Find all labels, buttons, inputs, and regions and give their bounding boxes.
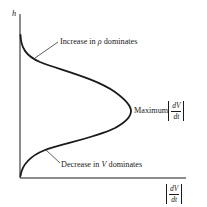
deceleration-profile-diagram: h Increase in ρ dominates Maximum dV dt …: [0, 0, 207, 207]
peak-fraction: dV dt: [169, 102, 183, 120]
x-axis-label: dV dt: [166, 184, 182, 204]
x-axis-numerator: dV: [169, 185, 179, 195]
y-axis-label: h: [12, 10, 16, 18]
x-axis-fraction: dV dt: [167, 185, 181, 203]
top-annotation-suffix: dominates: [102, 37, 138, 46]
bottom-annotation-prefix: Decrease in: [61, 160, 101, 169]
peak-annotation: Maximum dV dt: [134, 101, 184, 121]
peak-denominator: dt: [173, 112, 179, 121]
x-axis-denominator: dt: [171, 195, 177, 204]
peak-numerator: dV: [171, 102, 181, 112]
bottom-annotation-leader: [46, 150, 60, 163]
bottom-annotation-suffix: dominates: [106, 160, 142, 169]
top-annotation-prefix: Increase in: [60, 37, 98, 46]
peak-annotation-text: Maximum: [134, 107, 168, 115]
peak-abs-bars: dV dt: [168, 101, 184, 121]
bottom-annotation: Decrease in V dominates: [61, 161, 142, 169]
x-axis-abs-bars: dV dt: [166, 184, 182, 204]
top-annotation: Increase in ρ dominates: [60, 38, 137, 46]
top-annotation-leader: [35, 42, 58, 58]
